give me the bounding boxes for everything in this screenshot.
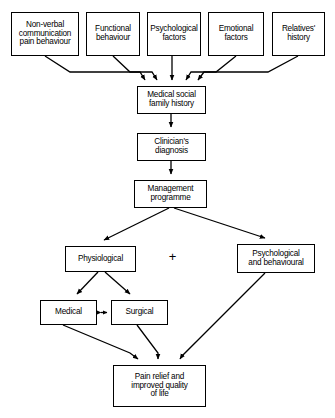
edge-medical-to-outcome bbox=[63, 325, 138, 359]
node-non-verbal-communication: Non-verbal communication pain behaviour bbox=[11, 12, 79, 56]
flowchart-connectors bbox=[0, 0, 335, 418]
node-functional-behaviour: Functional behaviour bbox=[86, 12, 140, 56]
node-label: Medical bbox=[53, 308, 84, 317]
edge-relatives-to-history bbox=[198, 56, 298, 80]
node-management-programme: Management programme bbox=[134, 180, 207, 208]
node-emotional-factors: Emotional factors bbox=[208, 12, 264, 56]
node-pain-relief-outcome: Pain relief and improved quality of life bbox=[113, 365, 206, 407]
node-label: Management programme bbox=[146, 185, 196, 203]
edge-management-to-physiological bbox=[104, 208, 169, 240]
edge-management-to-psychological bbox=[174, 208, 265, 238]
flowchart-diagram: Non-verbal communication pain behaviour … bbox=[0, 0, 335, 418]
node-label: Non-verbal communication pain behaviour bbox=[17, 21, 73, 48]
edge-non-verbal-to-history bbox=[45, 56, 145, 80]
node-clinicians-diagnosis: Clinician's diagnosis bbox=[137, 133, 206, 161]
edge-surgical-to-outcome bbox=[137, 325, 158, 359]
edge-physiological-to-surgical bbox=[105, 272, 130, 294]
node-label: Medical social family history bbox=[145, 91, 198, 109]
plus-operator-icon: + bbox=[166, 250, 179, 263]
node-medical-social-family-history: Medical social family history bbox=[137, 86, 206, 114]
node-surgical: Surgical bbox=[111, 300, 168, 325]
node-physiological: Physiological bbox=[65, 246, 136, 272]
node-label: Functional behaviour bbox=[93, 25, 133, 43]
node-psychological-and-behavioural: Psychological and behavioural bbox=[237, 244, 315, 273]
node-psychological-factors: Psychological factors bbox=[147, 12, 201, 56]
edge-physiological-to-medical bbox=[77, 272, 98, 294]
edge-emotional-to-history bbox=[186, 56, 236, 80]
edge-functional-to-history bbox=[113, 56, 157, 80]
node-relatives-history: Relatives' history bbox=[272, 12, 325, 56]
node-label: Psychological factors bbox=[148, 25, 199, 43]
node-medical: Medical bbox=[40, 300, 97, 325]
node-label: Surgical bbox=[124, 308, 156, 317]
node-label: Psychological and behavioural bbox=[246, 250, 305, 268]
node-label: Physiological bbox=[76, 255, 125, 264]
node-label: Emotional factors bbox=[217, 25, 256, 43]
node-label: Clinician's diagnosis bbox=[152, 138, 190, 156]
node-label: Relatives' history bbox=[280, 25, 317, 43]
edge-psychological-to-outcome bbox=[180, 273, 265, 359]
node-label: Pain relief and improved quality of life bbox=[129, 373, 189, 400]
